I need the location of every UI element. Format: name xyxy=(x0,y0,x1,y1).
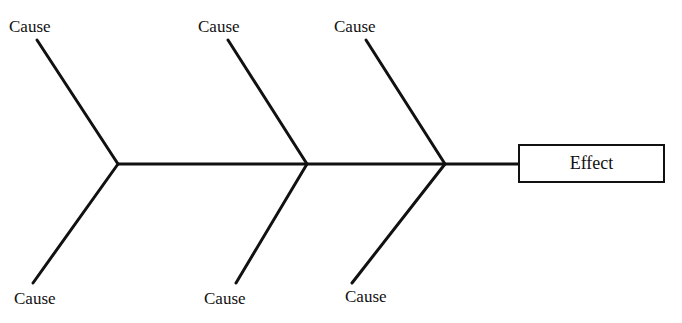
bone-bottom-2 xyxy=(236,164,307,283)
cause-label-bottom-3: Cause xyxy=(345,288,387,305)
cause-label-top-2: Cause xyxy=(198,18,240,35)
bone-top-3 xyxy=(366,40,445,164)
cause-label-top-3: Cause xyxy=(334,18,376,35)
bone-bottom-1 xyxy=(33,164,118,283)
effect-label: Effect xyxy=(570,153,614,174)
bone-top-2 xyxy=(228,40,307,164)
bone-top-1 xyxy=(37,40,118,164)
cause-label-bottom-1: Cause xyxy=(14,290,56,307)
effect-box: Effect xyxy=(518,144,665,183)
cause-label-bottom-2: Cause xyxy=(204,290,246,307)
bone-bottom-3 xyxy=(352,164,445,283)
cause-label-top-1: Cause xyxy=(9,18,51,35)
